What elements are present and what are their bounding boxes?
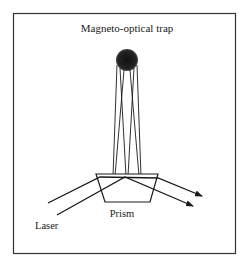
diagram-title: Magneto-optical trap: [81, 22, 174, 34]
vertical-beams: [113, 65, 141, 176]
mot-diagram: Magneto-optical trap Prism Laser: [0, 0, 249, 268]
atom-cloud: [116, 49, 138, 71]
laser-label: Laser: [35, 220, 59, 231]
prism-label: Prism: [110, 208, 135, 219]
